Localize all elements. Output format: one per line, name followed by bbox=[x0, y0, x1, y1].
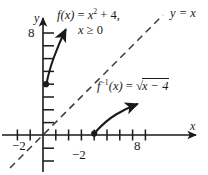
y-axis-ticks bbox=[43, 33, 54, 161]
curve-f bbox=[47, 30, 66, 84]
y-axis-letter-label: y bbox=[34, 12, 39, 24]
y-tick-label-minus-2: −2 bbox=[72, 148, 86, 161]
function-label-f-constant: + 4, bbox=[97, 8, 120, 22]
endpoint-dot-f bbox=[43, 81, 49, 87]
function-label-f-equals: = bbox=[74, 8, 87, 22]
finv-label-argument: (x) bbox=[109, 79, 123, 93]
function-label-f: f(x) = x2 + 4, bbox=[57, 8, 120, 22]
function-label-f-inverse: f−1(x) = √x − 4 bbox=[97, 79, 169, 93]
x-tick-label-8: 8 bbox=[134, 139, 141, 152]
function-label-f-argument: (x) bbox=[60, 8, 74, 22]
x-axis-letter-label: x bbox=[190, 120, 195, 132]
identity-line-label: y = x bbox=[170, 7, 196, 20]
radical-expression: √x − 4 bbox=[136, 80, 169, 93]
finv-label-exponent: −1 bbox=[100, 78, 108, 87]
y-tick-label-8: 8 bbox=[28, 26, 35, 39]
finv-label-equals: = bbox=[123, 79, 136, 93]
function-inverse-graph-figure: y x 8 −2 −2 8 f(x) = x2 + 4, x ≥ 0 y = x… bbox=[0, 0, 208, 175]
function-label-f-domain: x ≥ 0 bbox=[78, 24, 103, 37]
radicand: x − 4 bbox=[142, 78, 169, 93]
curve-f-inverse bbox=[95, 104, 137, 133]
x-tick-label-minus-2: −2 bbox=[12, 139, 26, 152]
domain-relation: ≥ 0 bbox=[84, 23, 103, 37]
endpoint-dot-f-inverse bbox=[91, 131, 97, 137]
